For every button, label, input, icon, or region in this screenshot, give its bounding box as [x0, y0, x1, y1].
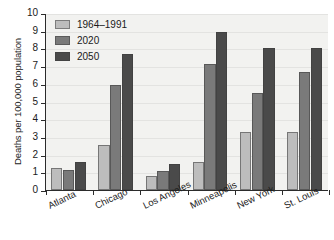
chart-legend: 1964–199120202050 — [55, 17, 127, 65]
bar — [252, 93, 263, 190]
y-axis-tick — [41, 85, 46, 86]
bar — [146, 176, 157, 190]
y-axis-tick — [41, 32, 46, 33]
y-axis-tick — [41, 138, 46, 139]
bar-group — [146, 14, 181, 190]
bar-group — [193, 14, 228, 190]
gridline — [46, 103, 328, 104]
x-axis-tick — [235, 190, 236, 195]
y-axis-tick — [41, 120, 46, 121]
legend-item: 2020 — [55, 33, 127, 48]
y-axis-tick — [41, 103, 46, 104]
x-axis-tick — [140, 190, 141, 195]
legend-label: 2020 — [77, 35, 99, 46]
y-axis-tick-label: 0 — [18, 184, 38, 195]
y-axis-tick — [41, 156, 46, 157]
bar — [193, 162, 204, 190]
bar — [98, 145, 109, 190]
bar-chart: Deaths per 100,000 population 0123456789… — [0, 0, 334, 240]
bar — [216, 32, 227, 190]
bar — [110, 85, 121, 190]
gridline — [46, 173, 328, 174]
x-axis-tick — [329, 190, 330, 195]
x-axis-tick — [282, 190, 283, 195]
bar-group — [240, 14, 275, 190]
x-axis-tick — [188, 190, 189, 195]
bar — [263, 48, 274, 190]
legend-item: 2050 — [55, 49, 127, 64]
gridline — [46, 120, 328, 121]
gridline — [46, 14, 328, 15]
gridline — [46, 156, 328, 157]
bar — [122, 54, 133, 190]
bar-group — [287, 14, 322, 190]
y-axis-tick — [41, 173, 46, 174]
legend-item: 1964–1991 — [55, 17, 127, 32]
y-axis-tick — [41, 67, 46, 68]
y-axis-tick-label: 3 — [18, 131, 38, 142]
bar — [51, 168, 62, 190]
bar — [287, 132, 298, 190]
x-axis-tick — [93, 190, 94, 195]
bar — [240, 132, 251, 190]
y-axis-tick-label: 5 — [18, 96, 38, 107]
legend-label: 2050 — [77, 51, 99, 62]
legend-swatch — [55, 36, 70, 45]
legend-label: 1964–1991 — [77, 19, 127, 30]
x-axis-tick-label: Atlanta — [46, 188, 77, 211]
y-axis-tick-label: 4 — [18, 113, 38, 124]
bar — [311, 48, 322, 190]
x-axis-tick — [46, 190, 47, 195]
y-axis-tick-label: 2 — [18, 149, 38, 160]
y-axis-tick-label: 6 — [18, 78, 38, 89]
y-axis-tick — [41, 14, 46, 15]
bar — [299, 72, 310, 190]
gridline — [46, 85, 328, 86]
bar — [204, 64, 215, 190]
legend-swatch — [55, 52, 70, 61]
y-axis-tick-label: 1 — [18, 166, 38, 177]
gridline — [46, 67, 328, 68]
y-axis-tick — [41, 49, 46, 50]
gridline — [46, 138, 328, 139]
bar — [75, 162, 86, 190]
y-axis-tick-label: 9 — [18, 25, 38, 36]
y-axis-tick-label: 10 — [18, 7, 38, 18]
legend-swatch — [55, 20, 70, 29]
y-axis-tick-label: 7 — [18, 60, 38, 71]
y-axis-tick-label: 8 — [18, 42, 38, 53]
